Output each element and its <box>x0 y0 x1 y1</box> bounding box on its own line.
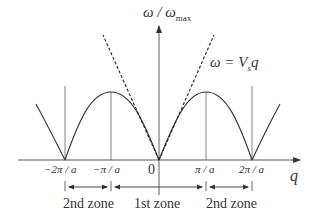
linear-relation-label: ω = Vsq <box>210 54 258 73</box>
y-axis-label: ω / ωmax <box>143 4 191 23</box>
linear-label-eq: = V <box>224 54 247 70</box>
dispersion-curve <box>36 92 280 160</box>
zone-label-left: 2nd zone <box>63 196 114 212</box>
y-axis-label-text: ω / ω <box>143 4 176 20</box>
tick-label-pos1: π / a <box>195 163 215 175</box>
dispersion-diagram <box>0 0 314 222</box>
tick-label-neg1: −π / a <box>93 163 120 175</box>
tick-label-pos2: 2π / a <box>239 163 264 175</box>
tick-label-zero: 0 <box>148 162 155 178</box>
tick-label-neg2: −2π / a <box>44 163 77 175</box>
zone-label-center: 1st zone <box>134 196 180 212</box>
x-axis-label: q <box>290 167 298 185</box>
y-axis-label-sub: max <box>176 13 192 23</box>
zone-label-right: 2nd zone <box>206 196 257 212</box>
linear-label-q: q <box>251 54 259 70</box>
linear-label-omega: ω <box>210 54 221 70</box>
